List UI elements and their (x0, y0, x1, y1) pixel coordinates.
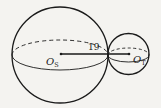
large-sphere-equator-front (12, 55, 108, 70)
large-sphere (12, 7, 108, 103)
segment-length-label: 19 (88, 42, 100, 52)
center-point-os (60, 53, 63, 56)
center-point-ot (128, 53, 131, 56)
label-os: OS (46, 56, 59, 69)
label-ot: OT (133, 54, 146, 67)
diagram-canvas: 19 OS OT (0, 0, 161, 108)
